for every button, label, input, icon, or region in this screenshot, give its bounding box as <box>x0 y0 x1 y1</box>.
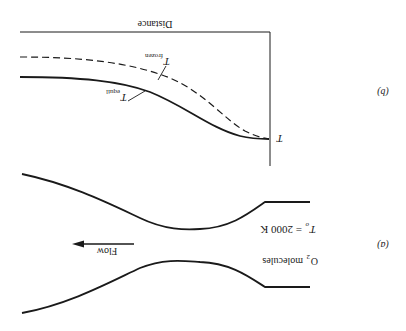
x-axis-label: Distance <box>137 19 173 30</box>
t0-value: = 2000 K <box>260 224 302 236</box>
t-frozen-symbol: T <box>163 56 170 68</box>
gas-text: molecules <box>262 256 303 267</box>
t-frozen-curve <box>20 57 269 139</box>
gas-label: O 2 molecules <box>262 253 318 267</box>
stagnation-temperature-label: T o = 2000 K <box>260 221 316 236</box>
t0-subscript: o <box>305 221 309 229</box>
nozzle-flow-diagram: Distance T T frozen T equil (b) Flow T o… <box>0 0 406 331</box>
panel-a-label: (a) <box>377 239 389 251</box>
t-equil-leader <box>128 91 145 101</box>
y-axis-label: T <box>276 133 283 145</box>
flow-label: Flow <box>96 246 117 257</box>
gas-subscript: 2 <box>306 253 310 261</box>
t-equil-label: T equil <box>106 88 127 104</box>
t-equil-curve <box>20 77 269 139</box>
panel-a-nozzle: Flow T o = 2000 K O 2 molecules (a) <box>22 174 389 313</box>
gas-formula: O <box>311 256 318 267</box>
t-equil-symbol: T <box>120 92 127 104</box>
panel-b-temperature-plot: Distance T T frozen T equil (b) <box>20 19 389 166</box>
t-frozen-subscript: frozen <box>145 52 163 60</box>
t0-symbol: T <box>309 224 316 236</box>
panel-b-label: (b) <box>377 86 389 98</box>
t-equil-subscript: equil <box>106 88 120 96</box>
nozzle-lower-wall <box>22 261 310 313</box>
nozzle-upper-wall <box>22 174 310 229</box>
t-frozen-label: T frozen <box>145 52 170 68</box>
